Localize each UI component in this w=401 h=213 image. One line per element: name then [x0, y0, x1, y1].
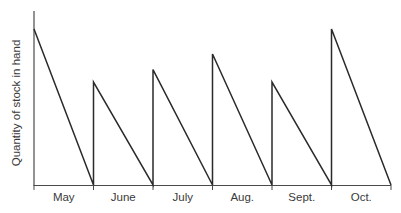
- month-label-may: May: [34, 191, 94, 203]
- month-label-oct: Oct.: [331, 191, 391, 203]
- stock-level-line: [34, 29, 391, 185]
- month-label-sept: Sept.: [272, 191, 332, 203]
- month-label-aug: Aug.: [212, 191, 272, 203]
- chart-plot: [0, 0, 401, 213]
- month-label-july: July: [153, 191, 213, 203]
- month-label-june: June: [93, 191, 153, 203]
- y-axis-label-text: Quantity of stock in hand: [10, 39, 22, 166]
- y-axis-label: Quantity of stock in hand: [3, 20, 29, 185]
